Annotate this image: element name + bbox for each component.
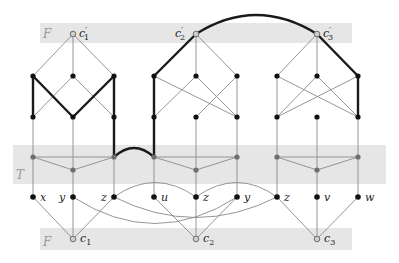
var-label: u: [161, 191, 168, 204]
clause-node-c3: [314, 236, 320, 242]
var-label: z: [100, 191, 107, 204]
var-label: y: [243, 191, 251, 204]
var-label: z: [283, 191, 290, 204]
clause-node-c2: [193, 236, 199, 242]
var-node-y: [70, 194, 76, 200]
graph-diagram: F T F: [0, 0, 399, 263]
clause-node-c1-prime: [70, 31, 76, 37]
var-label: v: [324, 191, 331, 204]
var-node-x: [30, 194, 36, 200]
var-node-z: [193, 194, 199, 200]
var-node-y: [234, 194, 240, 200]
thin-edges: [33, 34, 358, 239]
var-label: x: [40, 191, 47, 204]
band-label-bottom-F: F: [42, 235, 52, 249]
var-label: y: [58, 191, 66, 204]
var-node-w: [355, 194, 361, 200]
var-node-v: [314, 194, 320, 200]
var-label: w: [365, 191, 375, 204]
var-node-u: [151, 194, 157, 200]
band-label-top-F: F: [42, 27, 52, 41]
clause-node-c1: [70, 236, 76, 242]
var-label: z: [202, 191, 209, 204]
clause-node-c3-prime: [314, 31, 320, 37]
var-node-z: [274, 194, 280, 200]
band-middle-true: [13, 145, 386, 184]
clause-node-c2-prime: [193, 31, 199, 37]
band-label-T: T: [16, 168, 25, 182]
var-node-z: [111, 194, 117, 200]
